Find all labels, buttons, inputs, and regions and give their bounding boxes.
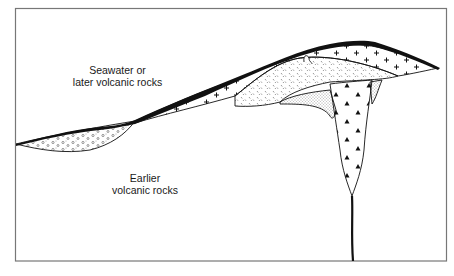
- label-lower-line2: volcanic rocks: [100, 184, 190, 196]
- cross-section-diagram: [0, 0, 454, 276]
- label-upper-line2: later volcanic rocks: [60, 76, 175, 88]
- label-lower: Earlier volcanic rocks: [100, 172, 190, 196]
- feeder-dike: [352, 196, 353, 261]
- label-upper: Seawater or later volcanic rocks: [60, 64, 175, 88]
- label-upper-line1: Seawater or: [60, 64, 175, 76]
- label-lower-line1: Earlier: [100, 172, 190, 184]
- feeder-pipe-unit: [330, 80, 372, 196]
